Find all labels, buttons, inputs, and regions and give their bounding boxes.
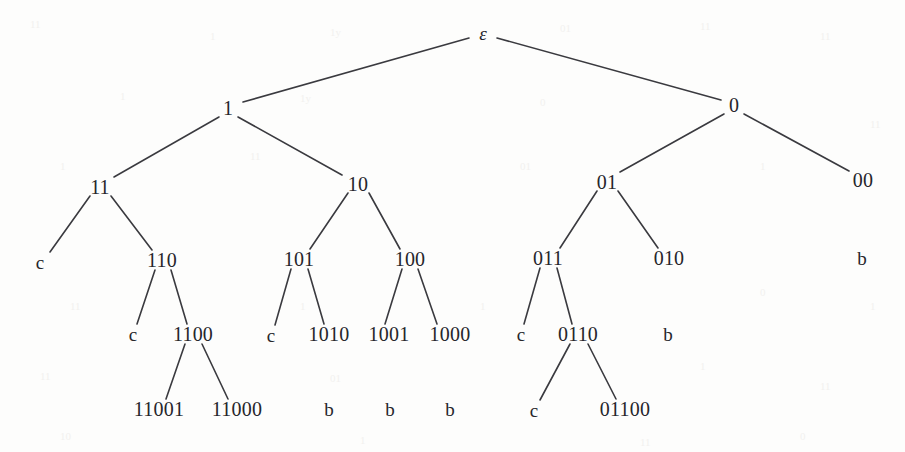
tree-leaf-marker: b <box>663 325 673 344</box>
trie-diagram-figure: 1111y01111111y01111101111110111011111011… <box>0 0 905 452</box>
tree-node: 1000 <box>430 324 471 344</box>
tree-node: 110 <box>147 250 177 270</box>
tree-node: 01100 <box>600 399 650 419</box>
tree-node: ε <box>479 24 487 43</box>
tree-node: 11001 <box>134 399 184 419</box>
tree-leaf-marker: c <box>36 253 45 272</box>
tree-node: 1001 <box>369 324 410 344</box>
tree-leaf-marker: c <box>530 401 539 420</box>
tree-leaf-marker: b <box>324 400 334 419</box>
tree-leaf-marker: b <box>445 400 455 419</box>
tree-node: 0110 <box>558 324 598 344</box>
tree-leaf-marker: b <box>857 249 867 268</box>
tree-node: 101 <box>284 249 315 269</box>
tree-leaf-marker: c <box>517 325 526 344</box>
tree-node: 011 <box>533 248 563 268</box>
tree-node: 01 <box>597 172 617 192</box>
tree-node-layer: ε1011100100c110101100011010bc1100c101010… <box>0 0 905 452</box>
tree-node: 1010 <box>309 324 350 344</box>
tree-node: 0 <box>729 95 739 115</box>
tree-node: 10 <box>348 174 368 194</box>
tree-leaf-marker: c <box>129 325 138 344</box>
tree-node: 00 <box>853 170 873 190</box>
tree-node: 11000 <box>212 399 262 419</box>
tree-leaf-marker: b <box>385 400 395 419</box>
tree-leaf-marker: c <box>267 326 276 345</box>
tree-node: 010 <box>654 248 685 268</box>
tree-node: 1 <box>223 98 233 118</box>
tree-node: 11 <box>90 177 110 197</box>
tree-node: 100 <box>395 249 426 269</box>
tree-node: 1100 <box>173 324 213 344</box>
